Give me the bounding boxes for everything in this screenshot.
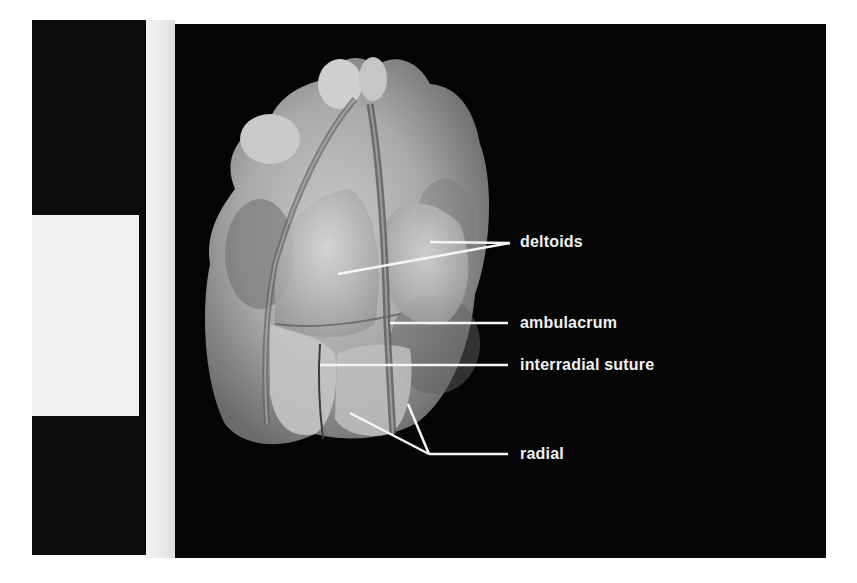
divider-strip [146, 20, 175, 558]
label-deltoids: deltoids [520, 233, 583, 251]
radial-plate-center [335, 345, 411, 436]
label-ambulacrum: ambulacrum [520, 314, 617, 332]
specimen-photo-panel: deltoids ambulacrum interradial suture r… [175, 24, 826, 558]
label-radial: radial [520, 445, 564, 463]
scale-bar-white-segment [32, 215, 139, 416]
specimen-illustration [175, 24, 826, 558]
label-interradial-suture: interradial suture [520, 356, 654, 374]
leader-line-deltoids-upper [430, 242, 510, 243]
scale-bar [32, 20, 146, 555]
